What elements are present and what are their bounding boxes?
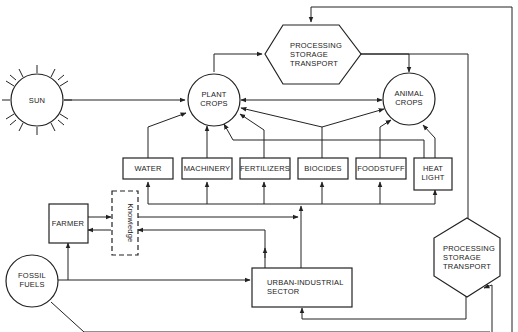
sun-label: SUN [29,96,45,105]
plant-crops-node: PLANT CROPS [188,74,240,126]
foodstuff-box: FOODSTUFF [356,158,406,179]
machinery-label: MACHINERY [184,164,231,173]
farmer-label: FARMER [52,219,85,228]
biocides-label: BIOCIDES [304,164,341,173]
pst-right-line3: TRANSPORT [443,262,491,271]
pst-right-line1: PROCESSING [443,244,495,253]
fossil-fuels-node: FOSSIL FUELS [6,255,58,307]
machinery-box: MACHINERY [182,158,232,179]
urban-industrial-label-1: URBAN-INDUSTRIAL [267,278,344,287]
sun-node: SUN [2,65,72,135]
pst-top-line1: PROCESSING [290,41,342,50]
processing-storage-transport-right: PROCESSING STORAGE TRANSPORT [434,218,500,297]
knowledge-label: Knowledge [126,204,135,243]
farmer-box: FARMER [49,204,88,243]
knowledge-box: Knowledge [112,191,138,255]
animal-crops-node: ANIMAL CROPS [383,73,435,125]
pst-right-line2: STORAGE [443,253,481,262]
biocides-box: BIOCIDES [298,158,348,179]
fossil-fuels-label-2: FUELS [19,280,44,289]
fertilizers-label: FERTILIZERS [240,164,290,173]
plant-crops-label-2: CROPS [200,99,228,108]
processing-storage-transport-top: PROCESSING STORAGE TRANSPORT [265,25,361,84]
urban-industrial-label-2: SECTOR [267,287,300,296]
pst-top-line3: TRANSPORT [290,59,338,68]
heat-light-box: HEAT LIGHT [414,158,452,190]
heat-light-label-1: HEAT [423,164,443,173]
fossil-fuels-label-1: FOSSIL [18,271,46,280]
animal-crops-label-1: ANIMAL [394,89,423,98]
heat-light-label-2: LIGHT [421,173,444,182]
pst-top-line2: STORAGE [290,50,328,59]
plant-crops-label-1: PLANT [201,90,226,99]
water-label: WATER [134,164,162,173]
foodstuff-label: FOODSTUFF [357,164,405,173]
urban-industrial-box: URBAN-INDUSTRIAL SECTOR [252,268,352,307]
animal-crops-label-2: CROPS [395,98,423,107]
fertilizers-box: FERTILIZERS [240,158,290,179]
agri-system-diagram: SUN PLANT CROPS ANIMAL CROPS PROCESSING … [0,0,518,332]
water-box: WATER [123,158,173,179]
